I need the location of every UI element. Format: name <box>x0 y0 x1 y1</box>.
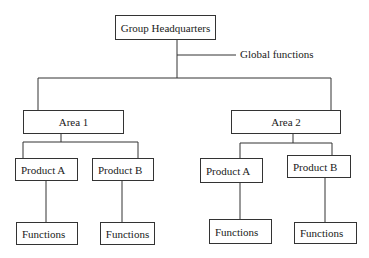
area-1-product-b-functions-box: Functions <box>100 222 155 245</box>
area-1-product-a-functions-box: Functions <box>16 222 78 245</box>
area-1-product-b-box: Product B <box>92 158 154 181</box>
area-2-product-a-box: Product A <box>200 158 263 183</box>
area-2-box: Area 2 <box>231 110 341 134</box>
area-2-product-b-functions-box: Functions <box>294 222 357 244</box>
group-headquarters-box: Group Headquarters <box>115 15 216 40</box>
area-1-box: Area 1 <box>23 110 124 134</box>
group-headquarters-label: Group Headquarters <box>121 22 211 34</box>
global-functions-label: Global functions <box>240 48 314 60</box>
area-2-product-b-functions-label: Functions <box>300 227 343 239</box>
area-2-label: Area 2 <box>271 116 301 128</box>
area-1-label: Area 1 <box>59 116 89 128</box>
area-1-product-b-functions-label: Functions <box>106 228 149 240</box>
area-1-product-b-label: Product B <box>98 164 142 176</box>
area-2-product-b-label: Product B <box>293 161 337 173</box>
area-2-product-a-functions-box: Functions <box>209 219 272 244</box>
org-chart: Group Headquarters Global functions Area… <box>0 0 369 258</box>
area-2-product-b-box: Product B <box>287 155 351 178</box>
area-2-product-a-label: Product A <box>206 165 250 177</box>
area-1-product-a-functions-label: Functions <box>22 228 65 240</box>
area-1-product-a-label: Product A <box>21 164 65 176</box>
area-1-product-a-box: Product A <box>15 158 78 181</box>
area-2-product-a-functions-label: Functions <box>215 226 258 238</box>
